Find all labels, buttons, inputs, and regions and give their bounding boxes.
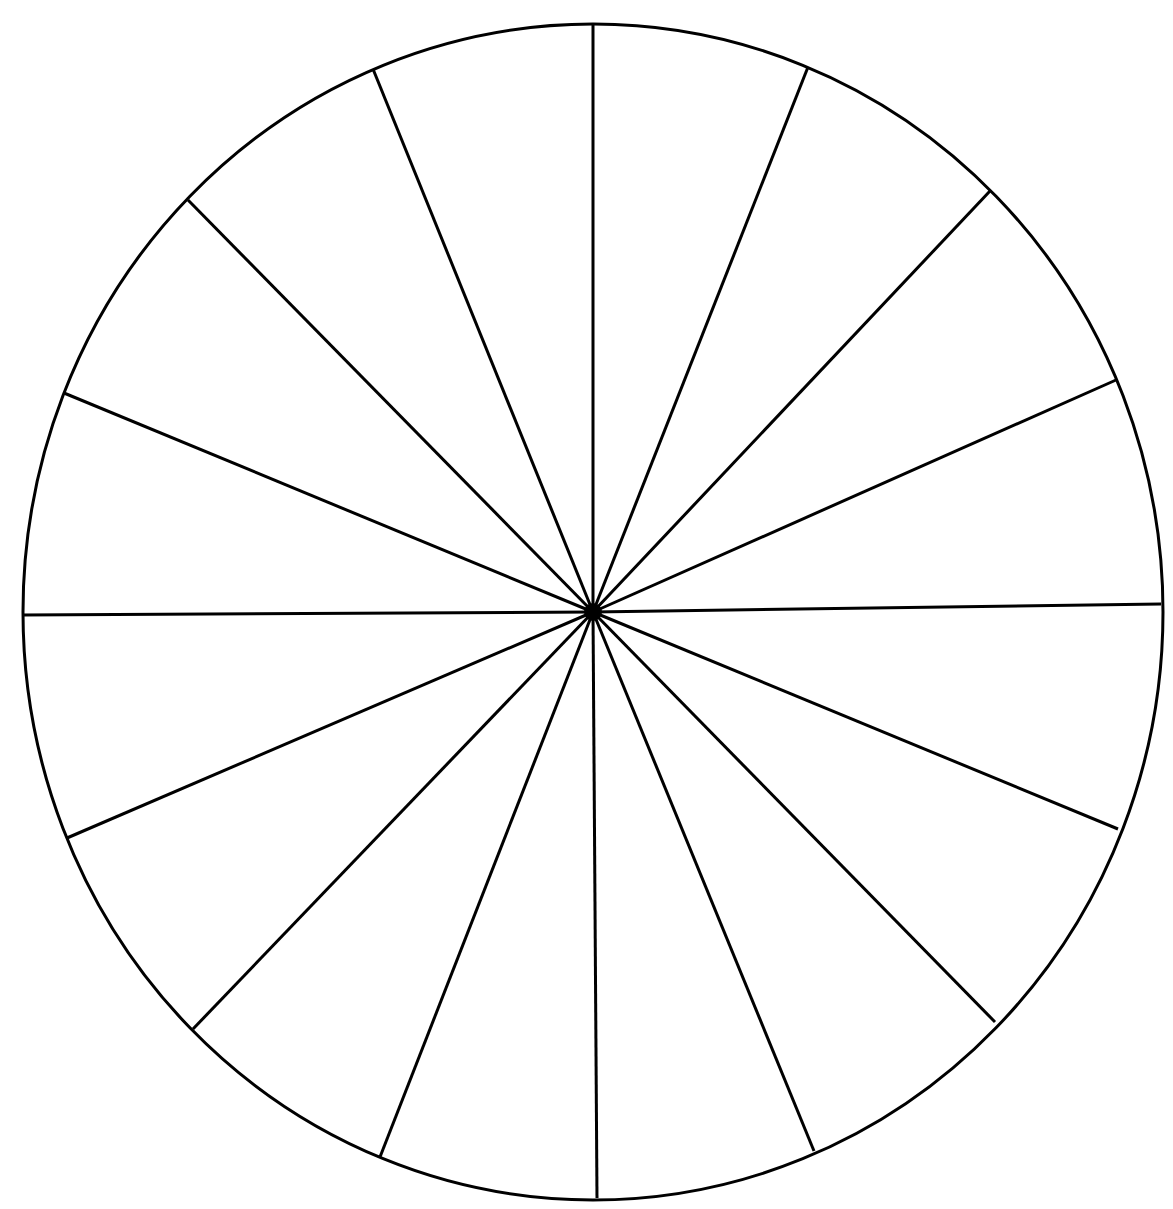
center-hub [584,603,602,621]
segmented-circle-diagram [0,0,1173,1209]
